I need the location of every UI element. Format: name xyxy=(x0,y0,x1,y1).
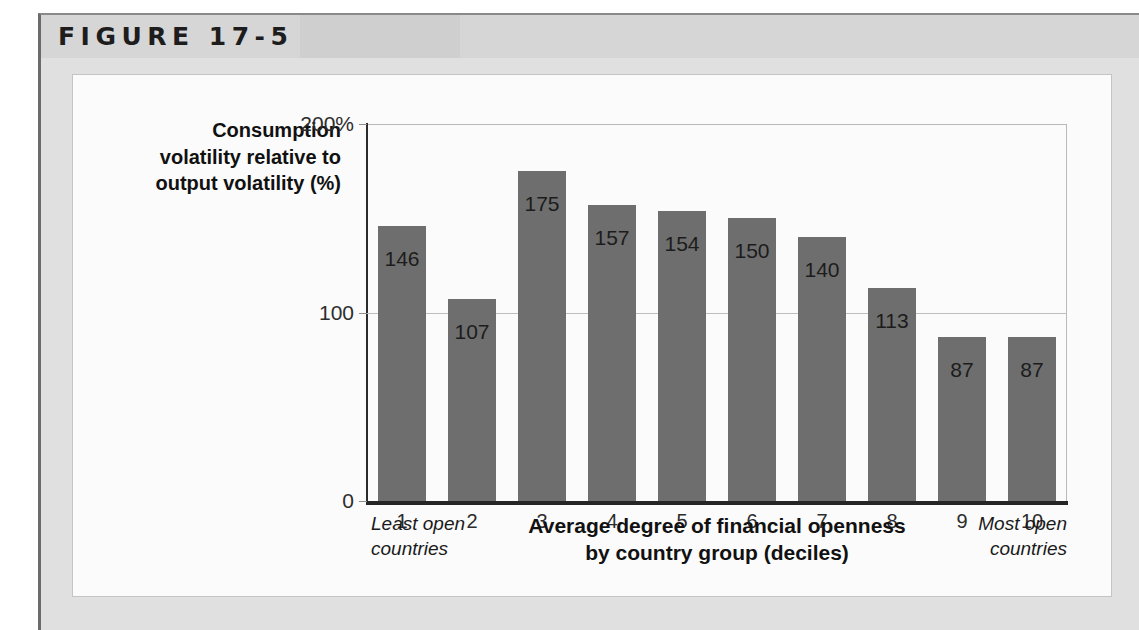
bar[interactable]: 107 xyxy=(448,299,496,501)
annotation-most-open: Most open countries xyxy=(917,512,1067,561)
bar-value-label: 140 xyxy=(798,258,846,282)
bar-value-label: 150 xyxy=(728,239,776,263)
bar-value-label: 154 xyxy=(658,232,706,256)
y-tick-mark-200 xyxy=(359,124,367,125)
figure-caption-band-accent xyxy=(300,15,460,58)
bar-value-label: 146 xyxy=(378,247,426,271)
annotation-most-open-line-2: countries xyxy=(917,537,1067,562)
annotation-most-open-line-1: Most open xyxy=(917,512,1067,537)
annotation-least-open-line-2: countries xyxy=(371,537,521,562)
y-tick-label-100: 100 xyxy=(319,301,354,325)
chart-card: Consumption volatility relative to outpu… xyxy=(72,74,1112,597)
bar-value-label: 113 xyxy=(868,309,916,333)
bar-value-label: 107 xyxy=(448,320,496,344)
y-tick-mark-100 xyxy=(359,313,367,314)
bar[interactable]: 87 xyxy=(938,337,986,501)
bar[interactable]: 175 xyxy=(518,171,566,501)
bar[interactable]: 154 xyxy=(658,211,706,501)
bar-value-label: 87 xyxy=(938,358,986,382)
annotation-least-open-line-1: Least open xyxy=(371,512,521,537)
y-axis-title-line-2: volatility relative to xyxy=(91,144,341,171)
y-axis-title-line-3: output volatility (%) xyxy=(91,170,341,197)
plot-area: 0100200% 1461071751571541501401138787 12… xyxy=(367,124,1067,501)
figure-number-title: FIGURE 17-5 xyxy=(58,22,293,51)
bar[interactable]: 146 xyxy=(378,226,426,501)
annotation-least-open: Least open countries xyxy=(371,512,521,561)
bar-value-label: 157 xyxy=(588,226,636,250)
bar[interactable]: 140 xyxy=(798,237,846,501)
bar[interactable]: 113 xyxy=(868,288,916,501)
y-tick-label-200: 200% xyxy=(300,112,354,136)
bar[interactable]: 157 xyxy=(588,205,636,501)
y-tick-label-0: 0 xyxy=(342,489,354,513)
bar-value-label: 175 xyxy=(518,192,566,216)
x-axis-line xyxy=(366,501,1068,505)
bar[interactable]: 87 xyxy=(1008,337,1056,501)
bar-value-label: 87 xyxy=(1008,358,1056,382)
bar[interactable]: 150 xyxy=(728,218,776,501)
figure-page: FIGURE 17-5 Consumption volatility relat… xyxy=(0,0,1139,630)
y-tick-mark-0 xyxy=(359,501,367,502)
